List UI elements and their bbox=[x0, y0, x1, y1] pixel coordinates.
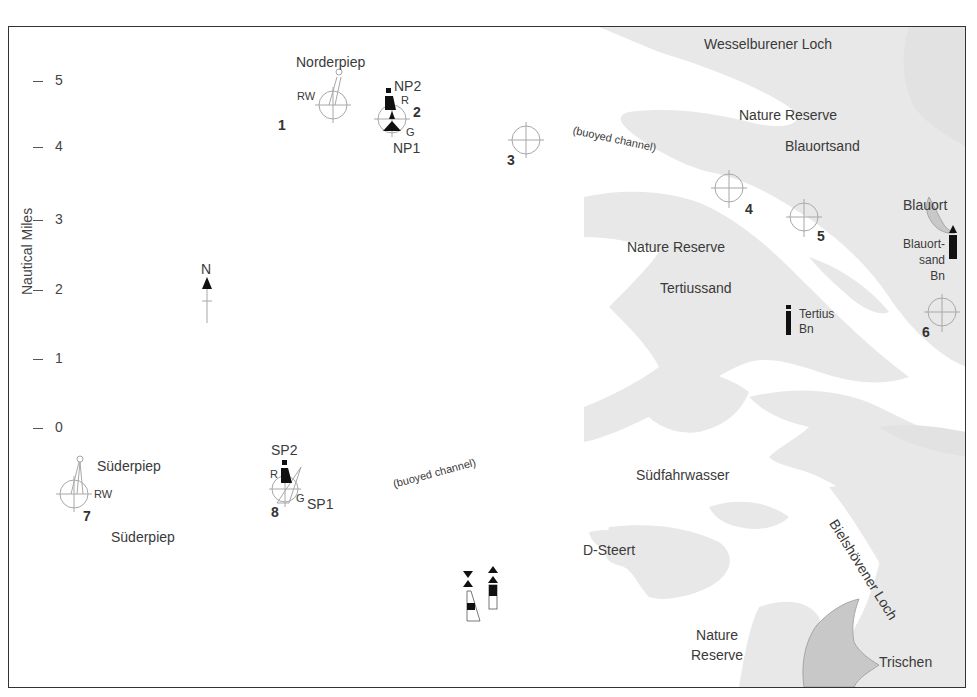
label-blauortsand: Blauortsand bbox=[785, 139, 860, 153]
blauortsand-line2: sand bbox=[897, 252, 945, 268]
y-tick-5: 5 bbox=[33, 72, 63, 88]
buoy-np2-label: NP2 bbox=[394, 79, 421, 93]
buoy-np1-label: NP1 bbox=[393, 141, 420, 155]
chart-map-frame: Nautical Miles 5 4 3 2 1 0 N Norderpiep … bbox=[8, 26, 966, 688]
waypoint-8[interactable]: 8 bbox=[271, 505, 279, 519]
waypoint-1-rw: RW bbox=[297, 91, 315, 102]
label-nature-reserve-north: Nature Reserve bbox=[739, 108, 837, 122]
buoy-sp-g-label: G bbox=[296, 493, 305, 504]
y-tick-1: 1 bbox=[33, 350, 63, 366]
label-nature-reserve-south: Nature Reserve bbox=[691, 625, 743, 665]
y-tick-3: 3 bbox=[33, 211, 63, 227]
sandbanks bbox=[584, 27, 966, 687]
waypoint-2[interactable]: 2 bbox=[413, 105, 421, 119]
label-trischen: Trischen bbox=[879, 655, 932, 669]
sp-buoys bbox=[281, 460, 292, 483]
waypoint-5[interactable]: 5 bbox=[817, 229, 825, 243]
label-nature-reserve-mid: Nature Reserve bbox=[627, 240, 725, 254]
waypoint-4[interactable]: 4 bbox=[745, 202, 753, 216]
blauortsand-line1: Blauort- bbox=[897, 236, 945, 252]
blauortsand-line3: Bn bbox=[897, 268, 945, 284]
label-suderpiep-top: Süderpiep bbox=[97, 459, 161, 473]
y-tick-2: 2 bbox=[33, 281, 63, 297]
map-background bbox=[9, 27, 966, 688]
label-sudfahrwasser: Südfahrwasser bbox=[636, 468, 729, 482]
label-nature-line1: Nature bbox=[691, 625, 743, 645]
buoy-np-r-label: R bbox=[401, 95, 409, 106]
buoy-np-g-label: G bbox=[406, 127, 415, 138]
tertius-beacon-label: Tertius Bn bbox=[799, 307, 834, 337]
label-tertiussand: Tertiussand bbox=[660, 281, 732, 295]
waypoint-7[interactable]: 7 bbox=[83, 509, 91, 523]
buoy-sp1-label: SP1 bbox=[307, 497, 333, 511]
waypoint-1[interactable]: 1 bbox=[278, 118, 286, 132]
label-d-steert: D-Steert bbox=[583, 543, 635, 557]
leading-marks-icon bbox=[463, 566, 498, 621]
compass-label: N bbox=[201, 262, 211, 276]
y-tick-4: 4 bbox=[33, 138, 63, 154]
waypoint-6[interactable]: 6 bbox=[922, 325, 930, 339]
waypoint-7-rw: RW bbox=[94, 489, 112, 500]
tertius-line1: Tertius bbox=[799, 307, 834, 322]
label-norderpiep: Norderpiep bbox=[296, 55, 365, 69]
label-nature-line2: Reserve bbox=[691, 645, 743, 665]
buoy-sp-r-label: R bbox=[270, 469, 278, 480]
label-blauort: Blauort bbox=[903, 198, 947, 212]
north-arrow-icon bbox=[202, 277, 212, 289]
y-tick-0: 0 bbox=[33, 419, 63, 435]
label-wesselburener-loch: Wesselburener Loch bbox=[704, 37, 832, 51]
buoy-sp2-label: SP2 bbox=[271, 443, 297, 457]
np-buoys bbox=[383, 88, 401, 131]
blauortsand-beacon-label: Blauort- sand Bn bbox=[897, 236, 945, 284]
label-suderpiep-bottom: Süderpiep bbox=[111, 530, 175, 544]
waypoint-3[interactable]: 3 bbox=[507, 153, 515, 167]
tertius-line2: Bn bbox=[799, 322, 834, 337]
